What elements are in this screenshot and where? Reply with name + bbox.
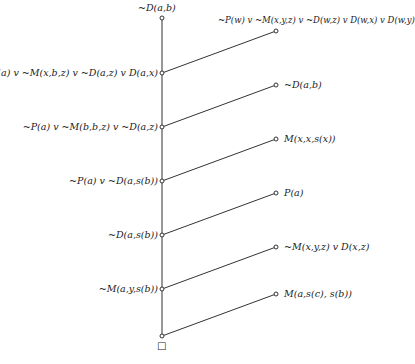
side-node-6 bbox=[274, 292, 278, 296]
side-label-1: ~P(w) v ~M(x,y,z) v ~D(w,z) v D(w,x) v D… bbox=[218, 14, 415, 26]
trunk-node-1 bbox=[160, 71, 164, 75]
edge-4 bbox=[162, 193, 276, 235]
trunk-node-4 bbox=[160, 233, 164, 237]
side-node-5 bbox=[274, 245, 278, 249]
side-node-4 bbox=[274, 191, 278, 195]
side-node-3 bbox=[274, 137, 278, 141]
edge-2 bbox=[162, 85, 276, 127]
trunk-label-1: ~P(a) v ~M(x,b,z) v ~D(a,z) v D(a,x) bbox=[0, 67, 158, 79]
trunk-node-6 bbox=[160, 334, 164, 338]
edge-1 bbox=[162, 31, 276, 73]
edge-6 bbox=[162, 294, 276, 336]
trunk-label-4: ~D(a,s(b)) bbox=[108, 229, 158, 241]
side-label-5: ~M(x,y,z) v D(x,z) bbox=[284, 241, 369, 253]
trunk-label-2: ~P(a) v ~M(b,b,z) v ~D(a,z) bbox=[23, 121, 158, 133]
edge-3 bbox=[162, 139, 276, 181]
side-label-2: ~D(a,b) bbox=[284, 79, 322, 91]
trunk-node-3 bbox=[160, 179, 164, 183]
side-node-1 bbox=[274, 29, 278, 33]
trunk-node-5 bbox=[160, 287, 164, 291]
root-node bbox=[160, 16, 164, 20]
trunk-label-5: ~M(a,y,s(b)) bbox=[99, 283, 158, 295]
trunk-node-2 bbox=[160, 125, 164, 129]
empty-clause-label: □ bbox=[157, 340, 166, 352]
side-label-3: M(x,x,s(x)) bbox=[284, 133, 336, 145]
side-node-2 bbox=[274, 83, 278, 87]
trunk-label-3: ~P(a) v ~D(a,s(b)) bbox=[69, 175, 158, 187]
side-label-6: M(a,s(c), s(b)) bbox=[284, 288, 352, 300]
side-label-4: P(a) bbox=[284, 187, 303, 199]
root-label: ~D(a,b) bbox=[138, 2, 176, 14]
edge-5 bbox=[162, 247, 276, 289]
